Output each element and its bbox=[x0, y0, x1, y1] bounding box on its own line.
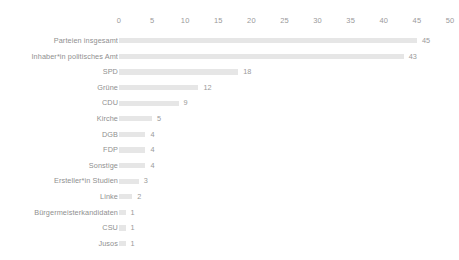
bar-value-label: 18 bbox=[243, 64, 251, 80]
bar-value-label: 4 bbox=[150, 158, 154, 174]
bar[interactable] bbox=[119, 116, 152, 121]
bar[interactable] bbox=[119, 101, 179, 106]
bar-value-label: 2 bbox=[137, 189, 141, 205]
bar-track bbox=[119, 236, 449, 252]
x-axis-tick-0: 0 bbox=[117, 14, 121, 28]
bar-row: CSU1 bbox=[0, 220, 459, 236]
x-axis-tick-20: 20 bbox=[247, 14, 256, 28]
bar-track bbox=[119, 142, 449, 158]
bar-track bbox=[119, 64, 449, 80]
bar-row: SPD18 bbox=[0, 64, 459, 80]
x-axis-tick-25: 25 bbox=[280, 14, 289, 28]
bar-value-label: 1 bbox=[131, 220, 135, 236]
x-axis-tick-15: 15 bbox=[214, 14, 223, 28]
bar-track bbox=[119, 95, 449, 111]
bar-value-label: 3 bbox=[144, 173, 148, 189]
category-label: FDP bbox=[103, 142, 118, 158]
bar-track bbox=[119, 158, 449, 174]
category-label: CSU bbox=[102, 220, 118, 236]
bar-value-label: 1 bbox=[131, 205, 135, 221]
bar-row: Sonstige4 bbox=[0, 158, 459, 174]
bar-row: Parteien insgesamt45 bbox=[0, 33, 459, 49]
bar-track bbox=[119, 220, 449, 236]
bar-row: Ersteller*in Studien3 bbox=[0, 173, 459, 189]
bar[interactable] bbox=[119, 54, 404, 59]
bar[interactable] bbox=[119, 163, 145, 168]
bar-row: FDP4 bbox=[0, 142, 459, 158]
category-label: DGB bbox=[102, 127, 118, 143]
bar[interactable] bbox=[119, 179, 139, 184]
bar-row: Jusos1 bbox=[0, 236, 459, 252]
bar-track bbox=[119, 111, 449, 127]
category-label: Linke bbox=[100, 189, 118, 205]
bar-track bbox=[119, 127, 449, 143]
bar-track bbox=[119, 80, 449, 96]
category-label: Parteien insgesamt bbox=[54, 33, 118, 49]
bar-value-label: 4 bbox=[150, 142, 154, 158]
x-axis-tick-45: 45 bbox=[413, 14, 422, 28]
category-label: Kirche bbox=[97, 111, 118, 127]
bar-value-label: 4 bbox=[150, 127, 154, 143]
bar-value-label: 45 bbox=[422, 33, 430, 49]
bar-row: Inhaber*in politisches Amt43 bbox=[0, 49, 459, 65]
category-label: CDU bbox=[102, 95, 118, 111]
bar[interactable] bbox=[119, 225, 126, 230]
bar-track bbox=[119, 205, 449, 221]
x-axis-tick-40: 40 bbox=[379, 14, 388, 28]
bar-row: Kirche5 bbox=[0, 111, 459, 127]
x-axis-tick-50: 50 bbox=[446, 14, 455, 28]
bar[interactable] bbox=[119, 147, 145, 152]
category-label: Inhaber*in politisches Amt bbox=[31, 49, 118, 65]
bar-value-label: 1 bbox=[131, 236, 135, 252]
bar-row: Bürgermeisterkandidaten1 bbox=[0, 205, 459, 221]
category-label: SPD bbox=[103, 64, 118, 80]
bar-chart: 05101520253035404550 Parteien insgesamt4… bbox=[0, 0, 459, 260]
bar-value-label: 5 bbox=[157, 111, 161, 127]
bar-row: Linke2 bbox=[0, 189, 459, 205]
x-axis-tick-5: 5 bbox=[150, 14, 154, 28]
category-label: Sonstige bbox=[89, 158, 118, 174]
bar[interactable] bbox=[119, 69, 238, 74]
bar-row: Grüne12 bbox=[0, 80, 459, 96]
bar[interactable] bbox=[119, 194, 132, 199]
bar-value-label: 9 bbox=[184, 95, 188, 111]
x-axis-tick-labels: 05101520253035404550 bbox=[0, 14, 459, 28]
x-axis-tick-10: 10 bbox=[181, 14, 190, 28]
x-axis-tick-30: 30 bbox=[313, 14, 322, 28]
bar-track bbox=[119, 49, 449, 65]
bar-row: DGB4 bbox=[0, 127, 459, 143]
bar[interactable] bbox=[119, 210, 126, 215]
bar-track bbox=[119, 189, 449, 205]
category-label: Jusos bbox=[98, 236, 118, 252]
plot-area: Parteien insgesamt45Inhaber*in politisch… bbox=[0, 30, 459, 255]
x-axis-tick-35: 35 bbox=[346, 14, 355, 28]
bar-value-label: 12 bbox=[203, 80, 211, 96]
bar[interactable] bbox=[119, 85, 198, 90]
bar-track bbox=[119, 173, 449, 189]
category-label: Ersteller*in Studien bbox=[54, 173, 118, 189]
bar-row: CDU9 bbox=[0, 95, 459, 111]
bar-track bbox=[119, 33, 449, 49]
category-label: Grüne bbox=[97, 80, 118, 96]
bar-value-label: 43 bbox=[409, 49, 417, 65]
category-label: Bürgermeisterkandidaten bbox=[34, 205, 118, 221]
bar[interactable] bbox=[119, 132, 145, 137]
bar[interactable] bbox=[119, 38, 417, 43]
bar[interactable] bbox=[119, 241, 126, 246]
